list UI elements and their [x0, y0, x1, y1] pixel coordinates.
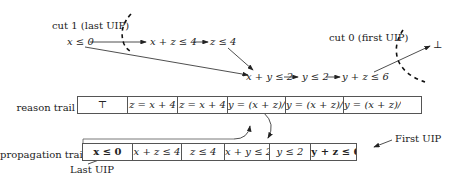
- propagation-trail: x ≤ 0 x + z ≤ 4 z ≤ 4 x + y ≤ 2 y ≤ 2 y …: [82, 143, 357, 161]
- first-uip-label: First UIP: [395, 133, 441, 145]
- node-x-plus-y-le-2: x + y ≤ 2: [246, 71, 293, 83]
- propagation-cell: x + z ≤ 4: [133, 144, 183, 160]
- reason-trail-label: reason trail: [0, 102, 75, 114]
- last-uip-label: Last UIP: [70, 164, 114, 176]
- reason-cell: y = (x + z)/2: [286, 97, 344, 113]
- node-y-plus-z-le-6: y + z ≤ 6: [342, 71, 389, 83]
- propagation-cell: y ≤ 2: [270, 144, 312, 160]
- reason-cell: y = (x + z)/2: [228, 97, 286, 113]
- first-uip-pointer: [374, 140, 392, 147]
- propagation-cell: y + z ≤ 6: [311, 144, 356, 160]
- node-bottom: ⊥: [433, 39, 442, 51]
- reason-cell: ⊤: [78, 97, 128, 113]
- edge-n3-n4: [228, 48, 253, 70]
- propagation-cell: x + y ≤ 2: [225, 144, 270, 160]
- reason-trail: ⊤ z = x + 4 z = x + 4 y = (x + z)/2 y = …: [77, 96, 422, 114]
- node-z-le-4: z ≤ 4: [210, 36, 236, 48]
- propagation-cell: z ≤ 4: [182, 144, 225, 160]
- node-y-le-2: y ≤ 2: [302, 71, 329, 83]
- node-x-le-0: x ≤ 0: [67, 36, 94, 48]
- cut-0-label: cut 0 (first UIP): [329, 32, 408, 44]
- reason-link-arrow: [234, 126, 250, 139]
- propagation-trail-label: propagation trail: [0, 149, 79, 161]
- edge-n1-n4: [85, 47, 248, 75]
- propagation-cell: x ≤ 0: [83, 144, 133, 160]
- reason-cell: z = x + 4: [178, 97, 228, 113]
- cut-1-label: cut 1 (last UIP): [52, 20, 129, 32]
- propagation-link-arrow: [264, 113, 271, 138]
- reason-cell: y = (x + z)/2: [344, 97, 401, 113]
- reason-cell: z = x + 4: [128, 97, 178, 113]
- node-x-plus-z-le-4: x + z ≤ 4: [150, 36, 197, 48]
